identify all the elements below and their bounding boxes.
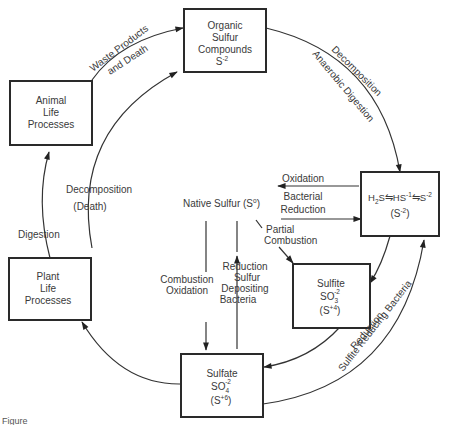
label-reduction-sulfur-3: Depositing xyxy=(221,283,268,294)
label-combustion-oxidation-1: Combustion xyxy=(160,274,213,285)
node-animal-life-processes: Animal Life Processes xyxy=(10,81,92,145)
organic-line3: Compounds xyxy=(198,44,252,55)
node-sulfate: Sulfate SO4-2 (S+6) xyxy=(181,354,263,417)
label-decomposition-death-1: Decomposition xyxy=(66,184,132,195)
arrow-partial-combustion xyxy=(279,247,293,263)
label-oxidation: Oxidation xyxy=(282,173,324,184)
figure-caption: Figure xyxy=(2,416,28,425)
sulfite-name: Sulfite xyxy=(317,278,345,289)
label-bacterial: Bacterial xyxy=(284,191,323,202)
organic-line1: Organic xyxy=(207,20,242,31)
line-partial-combustion-a xyxy=(256,220,262,228)
plant-line2: Life xyxy=(40,283,57,294)
svg-text:(S-2): (S-2) xyxy=(390,207,409,219)
node-sulfite: Sulfite SO3-2 (S+4) xyxy=(293,264,370,328)
label-reduction: Reduction xyxy=(280,204,325,215)
organic-line2: Sulfur xyxy=(212,32,239,43)
label-reduction-sulfur-1: Reduction xyxy=(222,261,267,272)
plant-line1: Plant xyxy=(37,271,60,282)
label-digestion: Digestion xyxy=(18,229,60,240)
node-plant-life-processes: Plant Life Processes xyxy=(9,258,91,320)
sulfur-cycle-diagram: Organic Sulfur Compounds S-2 Animal Life… xyxy=(0,0,450,425)
sulfide-state: (S xyxy=(390,208,400,219)
label-partial: Partial xyxy=(266,224,294,235)
animal-line2: Life xyxy=(43,107,60,118)
arrow-plant-to-animal xyxy=(42,152,50,258)
sulfate-name: Sulfate xyxy=(206,368,238,379)
label-combustion: Combustion xyxy=(264,235,317,246)
node-organic-sulfur-compounds: Organic Sulfur Compounds S-2 xyxy=(184,9,266,72)
node-native-sulfur: Native Sulfur (So) xyxy=(183,197,260,209)
arrow-sulfite-to-sulfate xyxy=(264,327,340,367)
arrow-sulfate-to-plant xyxy=(82,322,181,384)
svg-text:H2S⇋HS-1⇋S-2: H2S⇋HS-1⇋S-2 xyxy=(368,191,432,205)
label-reduction-sulfur-4: Bacteria xyxy=(220,294,257,305)
label-decomposition-death-2: (Death) xyxy=(73,201,106,212)
arrow-sulfide-to-sulfite xyxy=(370,236,390,283)
organic-formula-sup: -2 xyxy=(222,55,228,62)
arrow-decomposition-to-organic xyxy=(88,72,177,248)
node-sulfide: H2S⇋HS-1⇋S-2 (S-2) xyxy=(361,172,439,236)
label-combustion-oxidation-2: Oxidation xyxy=(166,285,208,296)
label-reduction-sulfur-2: Sulfur xyxy=(234,272,261,283)
animal-line1: Animal xyxy=(36,95,67,106)
animal-line3: Processes xyxy=(28,119,75,130)
plant-line3: Processes xyxy=(25,295,72,306)
